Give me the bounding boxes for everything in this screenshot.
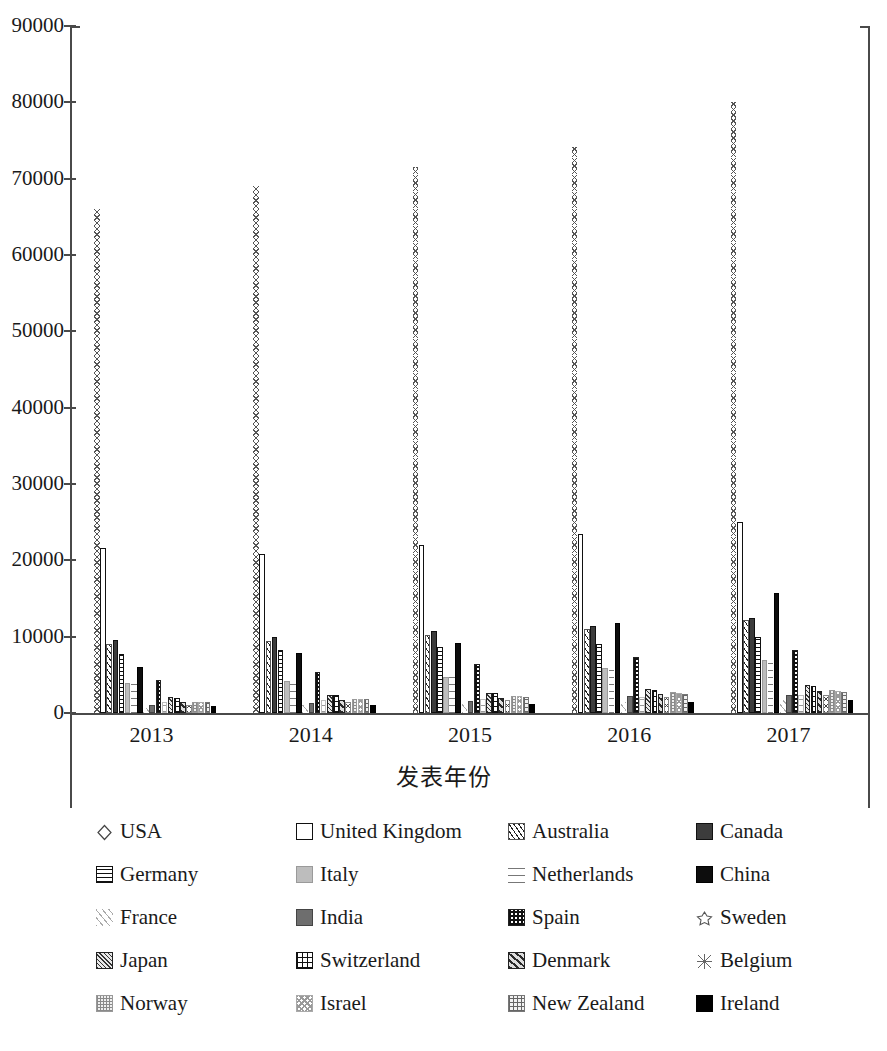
bar xyxy=(358,699,364,714)
y-axis-tick xyxy=(64,483,76,485)
x-axis-tick-label: 2014 xyxy=(251,722,371,748)
bar xyxy=(162,702,168,713)
speckle-swatch xyxy=(96,995,113,1012)
legend-item: USA xyxy=(96,820,296,842)
bar xyxy=(823,695,829,713)
bar xyxy=(749,618,755,713)
bar xyxy=(253,186,259,713)
solid-black-swatch xyxy=(696,995,713,1012)
bar xyxy=(492,693,498,713)
bar xyxy=(186,705,192,713)
legend-item: Sweden xyxy=(696,906,866,928)
bar xyxy=(731,102,737,713)
dark-gray-solid-swatch xyxy=(696,823,713,840)
bar-group xyxy=(94,26,217,713)
y-axis-tick-label: 60000 xyxy=(0,244,64,265)
bar xyxy=(621,702,627,713)
legend-label: Italy xyxy=(320,863,358,885)
x-axis-tick-label: 2017 xyxy=(728,722,848,748)
bar xyxy=(205,702,211,713)
bar xyxy=(119,654,125,713)
bar xyxy=(658,694,664,713)
bar xyxy=(315,672,321,713)
bar xyxy=(137,667,143,713)
bar xyxy=(321,700,327,713)
y-axis-tick xyxy=(64,407,76,409)
bar xyxy=(443,677,449,713)
y-axis-tick-label: 10000 xyxy=(0,626,64,647)
wide-diagonal-swatch xyxy=(508,952,525,969)
y-axis-tick xyxy=(64,25,76,27)
y-axis-tick-label: 50000 xyxy=(0,320,64,341)
checkerboard-swatch xyxy=(508,909,525,926)
legend-label: Norway xyxy=(120,992,188,1014)
bar xyxy=(615,623,621,713)
bar xyxy=(578,534,584,713)
bar xyxy=(755,637,761,713)
y-axis-tick-label: 90000 xyxy=(0,15,64,36)
y-axis-tick xyxy=(64,178,76,180)
bar xyxy=(529,704,535,713)
bar-group xyxy=(731,26,854,713)
brick-grid-swatch xyxy=(296,952,313,969)
legend-label: Belgium xyxy=(720,949,792,971)
bar xyxy=(627,696,633,713)
bar xyxy=(572,147,578,713)
bar xyxy=(762,660,768,713)
diamond-outline-swatch xyxy=(96,823,113,840)
y-axis-tick xyxy=(64,330,76,332)
bar xyxy=(841,692,847,713)
bar xyxy=(633,657,639,713)
bar xyxy=(805,685,811,713)
legend-label: Japan xyxy=(120,949,168,971)
bar xyxy=(474,664,480,713)
bar xyxy=(455,643,461,713)
bar xyxy=(106,644,112,713)
bar xyxy=(798,695,804,713)
legend-item: Denmark xyxy=(508,949,696,971)
y-axis-tick-label: 70000 xyxy=(0,168,64,189)
legend-label: Switzerland xyxy=(320,949,420,971)
bar-group xyxy=(413,26,536,713)
bar xyxy=(284,681,290,713)
bar xyxy=(272,637,278,713)
bar xyxy=(198,702,204,713)
bar xyxy=(419,545,425,713)
y-axis-tick xyxy=(64,712,76,714)
bar xyxy=(462,703,468,713)
y-axis-line xyxy=(70,26,72,715)
bar xyxy=(511,696,517,713)
bar xyxy=(505,700,511,713)
bar xyxy=(786,695,792,713)
bar xyxy=(664,697,670,713)
bar xyxy=(517,696,523,713)
bar xyxy=(523,697,529,713)
legend-label: Netherlands xyxy=(532,863,633,885)
bar xyxy=(670,692,676,713)
y-axis-tick-label: 0 xyxy=(0,702,64,723)
y-axis-tick-label: 20000 xyxy=(0,549,64,570)
light-diagonal-swatch xyxy=(96,909,113,926)
bar xyxy=(774,593,780,713)
bar xyxy=(737,522,743,713)
bar xyxy=(180,702,186,713)
bar xyxy=(413,167,419,713)
legend-item: Norway xyxy=(96,992,296,1014)
legend-item: India xyxy=(296,906,508,928)
legend-label: Spain xyxy=(532,906,580,928)
bar xyxy=(192,702,198,713)
legend-item: Spain xyxy=(508,906,696,928)
chart-figure: 0100002000030000400005000060000700008000… xyxy=(0,0,887,1051)
legend-item: Japan xyxy=(96,949,296,971)
legend-label: New Zealand xyxy=(532,992,645,1014)
bar xyxy=(125,683,131,713)
bar xyxy=(113,640,119,713)
legend-item: China xyxy=(696,863,866,885)
bar xyxy=(431,631,437,713)
bar xyxy=(302,705,308,713)
legend-label: Canada xyxy=(720,820,783,842)
bar xyxy=(94,209,100,713)
light-gray-solid-swatch xyxy=(296,866,313,883)
bar xyxy=(327,695,333,713)
bar xyxy=(156,680,162,713)
